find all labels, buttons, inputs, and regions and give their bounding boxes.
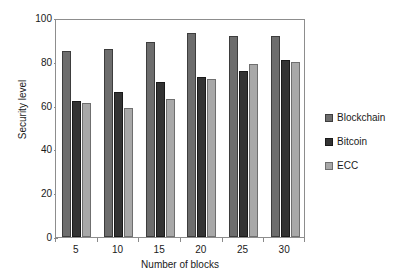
x-axis-tick-marks [55,238,305,243]
x-axis-tick-mark [55,238,56,242]
bar [62,51,71,237]
x-axis-tick-mark [138,238,139,242]
x-axis-tick-labels: 51015202530 [55,244,305,258]
legend-swatch-icon [325,114,333,122]
bar [124,108,133,237]
y-axis-tick-label: 100 [26,14,52,24]
bar [291,62,300,237]
legend-label: Bitcoin [337,136,367,147]
legend-item: Bitcoin [325,136,405,147]
x-axis-tick-label: 15 [139,244,179,256]
bar-group [264,20,306,237]
bar [281,60,290,237]
x-axis-tick-label: 20 [181,244,221,256]
bar-group [139,20,181,237]
bar-group [56,20,98,237]
legend-item: Blockchain [325,112,405,123]
x-axis-tick-mark [222,238,223,242]
y-axis-tick-labels: 020406080100 [26,14,52,244]
x-axis-tick-mark [180,238,181,242]
x-axis-tick-label: 25 [223,244,263,256]
bar [82,103,91,237]
bar [114,92,123,237]
x-axis-tick-label: 5 [56,244,96,256]
bar [187,33,196,237]
bar [156,82,165,237]
bar [271,36,280,237]
bar [72,101,81,237]
bar [197,77,206,237]
plot-area [55,19,305,238]
bar-chart: Security level 020406080100 51015202530 … [0,0,407,280]
bar [104,49,113,237]
bar-group [223,20,265,237]
legend-swatch-icon [325,138,333,146]
y-axis-tick-label: 20 [26,189,52,199]
x-axis-tick-mark [97,238,98,242]
chart-legend: BlockchainBitcoinECC [325,112,405,184]
bar [146,42,155,237]
legend-item: ECC [325,160,405,171]
bar [166,99,175,237]
x-axis-tick-label: 30 [264,244,304,256]
legend-label: Blockchain [337,112,385,123]
y-axis-tick-label: 60 [26,102,52,112]
y-axis-tick-label: 80 [26,58,52,68]
x-axis-tick-mark [304,238,305,242]
bar-group [181,20,223,237]
plot-inner [56,20,304,237]
x-axis-tick-mark [263,238,264,242]
bar [207,79,216,237]
bar [249,64,258,237]
bar-group [98,20,140,237]
y-axis-tick-label: 0 [26,233,52,243]
bar [239,71,248,237]
bar [229,36,238,237]
x-axis-title: Number of blocks [55,259,305,271]
x-axis-tick-label: 10 [98,244,138,256]
legend-swatch-icon [325,162,333,170]
y-axis-tick-label: 40 [26,145,52,155]
legend-label: ECC [337,160,358,171]
